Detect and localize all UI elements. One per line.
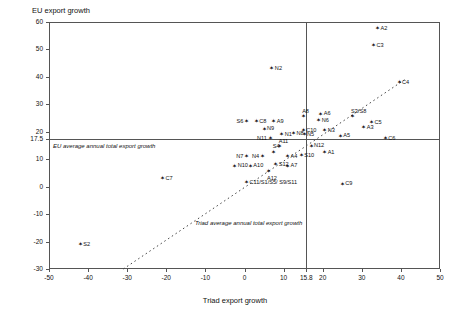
x-axis-tick-label: 20 bbox=[308, 274, 338, 281]
data-point-label: A5 bbox=[343, 132, 350, 138]
data-point-label: C5 bbox=[375, 119, 382, 125]
star-marker-icon: ✶ bbox=[322, 150, 327, 155]
star-marker-icon: ✶ bbox=[318, 112, 323, 117]
data-point-label: C6 bbox=[388, 135, 395, 141]
star-marker-icon: ✶ bbox=[371, 43, 376, 48]
y-axis-tick-label: 50 bbox=[13, 45, 43, 52]
star-marker-icon: ✶ bbox=[273, 162, 278, 167]
data-point-label: A6 bbox=[324, 110, 331, 116]
plot-area: EU average annual total export growth Tr… bbox=[49, 22, 440, 269]
star-marker-icon: ✶ bbox=[262, 127, 267, 132]
data-point-label: S6 bbox=[237, 118, 244, 124]
star-marker-icon: ✶ bbox=[160, 176, 165, 181]
star-marker-icon: ✶ bbox=[268, 136, 273, 141]
data-point-label: N5 bbox=[307, 131, 314, 137]
x-axis-tick bbox=[166, 269, 167, 272]
y-axis-tick bbox=[46, 132, 49, 133]
x-axis-tick-label: 30 bbox=[347, 274, 377, 281]
x-axis-tick-label: 50 bbox=[425, 274, 455, 281]
data-point-label: S10 bbox=[304, 152, 314, 158]
y-axis-tick-label: 10 bbox=[13, 155, 43, 162]
star-marker-icon: ✶ bbox=[340, 182, 345, 187]
data-point-label: C11/S1/S5/ S9/S11 bbox=[249, 179, 297, 185]
star-marker-icon: ✶ bbox=[299, 153, 304, 158]
data-point-label: C8 bbox=[259, 118, 266, 124]
y-axis-tick bbox=[46, 139, 49, 140]
x-axis-tick bbox=[284, 269, 285, 272]
star-marker-icon: ✶ bbox=[244, 119, 249, 124]
x-axis-tick-label: -10 bbox=[190, 274, 220, 281]
x-axis-tick bbox=[205, 269, 206, 272]
y-axis-tick bbox=[46, 104, 49, 105]
star-marker-icon: ✶ bbox=[269, 66, 274, 71]
y-axis-tick bbox=[46, 77, 49, 78]
y-axis-tick bbox=[46, 214, 49, 215]
star-marker-icon: ✶ bbox=[279, 132, 284, 137]
data-point-label: C3 bbox=[377, 42, 384, 48]
x-axis-tick bbox=[323, 269, 324, 272]
data-point-label: A4 bbox=[291, 153, 298, 159]
y-axis-tick-label: -20 bbox=[13, 238, 43, 245]
data-point-label: A8 bbox=[302, 108, 309, 114]
star-marker-icon: ✶ bbox=[309, 144, 314, 149]
x-axis-tick bbox=[401, 269, 402, 272]
y-axis-tick-label: 60 bbox=[13, 18, 43, 25]
y-axis-tick bbox=[46, 22, 49, 23]
y-axis-title: EU export growth bbox=[32, 6, 90, 15]
star-marker-icon: ✶ bbox=[375, 26, 380, 31]
star-marker-icon: ✶ bbox=[232, 164, 237, 169]
star-marker-icon: ✶ bbox=[302, 132, 307, 137]
data-point-label: S3/S8 bbox=[351, 108, 366, 114]
x-axis-title: Triad export growth bbox=[0, 296, 470, 305]
y-axis-tick bbox=[46, 187, 49, 188]
star-marker-icon: ✶ bbox=[266, 169, 271, 174]
eu-average-annotation: EU average annual total export growth bbox=[53, 143, 155, 151]
x-axis-tick-label: -40 bbox=[73, 274, 103, 281]
star-marker-icon: ✶ bbox=[301, 114, 306, 119]
y-axis-tick-label: 40 bbox=[13, 73, 43, 80]
star-marker-icon: ✶ bbox=[78, 242, 83, 247]
star-marker-icon: ✶ bbox=[260, 154, 265, 159]
x-axis-tick-label: 40 bbox=[386, 274, 416, 281]
data-point-label: A2 bbox=[380, 25, 387, 31]
triad-average-annotation: Triad average annual total export growth bbox=[195, 220, 302, 228]
x-axis-tick-label: 0 bbox=[230, 274, 260, 281]
triad-average-reference-line bbox=[306, 22, 307, 269]
star-marker-icon: ✶ bbox=[338, 134, 343, 139]
x-axis-tick bbox=[440, 269, 441, 272]
star-marker-icon: ✶ bbox=[361, 125, 366, 130]
x-axis-tick bbox=[362, 269, 363, 272]
data-point-label: A3 bbox=[367, 124, 374, 130]
data-point-label: N10 bbox=[238, 162, 248, 168]
star-marker-icon: ✶ bbox=[316, 118, 321, 123]
data-point-label: A11 bbox=[279, 138, 289, 144]
x-axis-tick bbox=[127, 269, 128, 272]
x-axis-tick bbox=[306, 269, 307, 272]
star-marker-icon: ✶ bbox=[350, 114, 355, 119]
data-point-label: N6 bbox=[322, 117, 329, 123]
x-axis-tick-label: -20 bbox=[151, 274, 181, 281]
star-marker-icon: ✶ bbox=[244, 154, 249, 159]
y-axis-tick bbox=[46, 159, 49, 160]
y-axis-tick-label: -10 bbox=[13, 210, 43, 217]
y-axis-tick bbox=[46, 242, 49, 243]
y-axis-tick bbox=[46, 49, 49, 50]
data-point-label: A9 bbox=[277, 118, 284, 124]
star-marker-icon: ✶ bbox=[397, 80, 402, 85]
y-axis-tick-label: 30 bbox=[13, 100, 43, 107]
data-point-label: N7 bbox=[236, 153, 243, 159]
data-point-label: A1 bbox=[328, 149, 335, 155]
star-marker-icon: ✶ bbox=[271, 119, 276, 124]
data-point-label: A10 bbox=[253, 162, 263, 168]
y-axis-tick-label: 0 bbox=[13, 183, 43, 190]
x-axis-tick bbox=[49, 269, 50, 272]
x-axis-tick bbox=[88, 269, 89, 272]
data-point-label: N4 bbox=[252, 153, 259, 159]
data-point-label: A7 bbox=[291, 162, 298, 168]
star-marker-icon: ✶ bbox=[383, 136, 388, 141]
data-point-label: N2 bbox=[275, 65, 282, 71]
star-marker-icon: ✶ bbox=[248, 164, 253, 169]
star-marker-icon: ✶ bbox=[271, 150, 276, 155]
x-axis-tick-label: -30 bbox=[112, 274, 142, 281]
chart-root: EU export growth Triad export growth EU … bbox=[0, 0, 470, 315]
